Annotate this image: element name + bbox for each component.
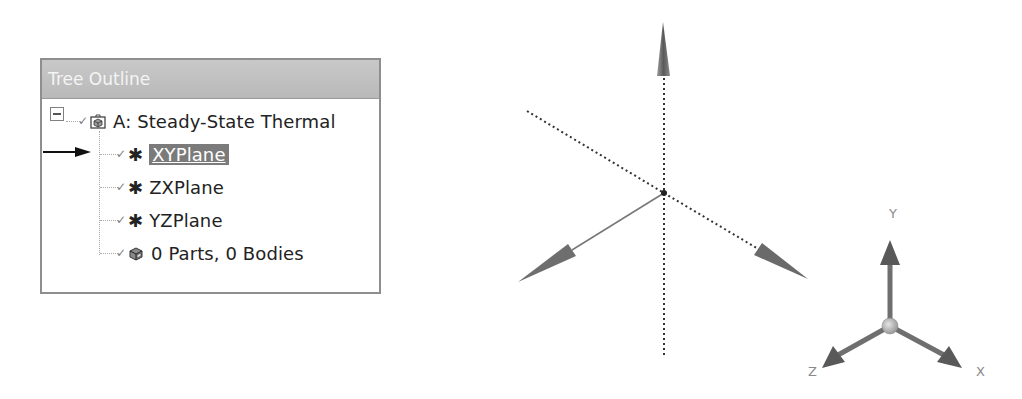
triad-z-label: Z — [808, 364, 817, 379]
origin-point — [661, 190, 667, 196]
viewport-axes — [0, 0, 1022, 399]
orientation-triad[interactable] — [822, 240, 962, 368]
x-axis-line-negative — [527, 111, 664, 193]
x-axis-line — [664, 193, 760, 250]
z-axis-arrowhead — [518, 244, 576, 282]
global-axes — [518, 22, 808, 356]
x-axis-arrowhead — [754, 243, 808, 279]
triad-y-label: Y — [889, 206, 897, 221]
triad-x-label: X — [976, 364, 985, 379]
y-axis-arrowhead — [657, 22, 670, 76]
z-axis-line — [572, 193, 664, 250]
